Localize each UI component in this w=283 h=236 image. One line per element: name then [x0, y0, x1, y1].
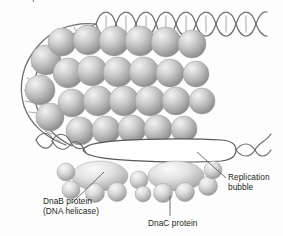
label-dnac-protein: DnaC protein: [148, 219, 198, 229]
label-dnab-protein: DnaB protein (DNA helicase): [43, 197, 99, 216]
label-replication-bubble: Replication bubble: [228, 173, 270, 192]
label-bubble-line2: bubble: [228, 183, 270, 193]
dna-helix-bubble-right: [236, 134, 271, 156]
replication-bubble-lens: [83, 139, 236, 162]
dna-replication-figure: ...of a replication bubble.: [0, 0, 283, 236]
dnaa-protein-sphere-cluster: [25, 25, 215, 145]
label-dnac-line1: DnaC protein: [148, 219, 198, 229]
label-dnab-line2: (DNA helicase): [43, 207, 99, 217]
